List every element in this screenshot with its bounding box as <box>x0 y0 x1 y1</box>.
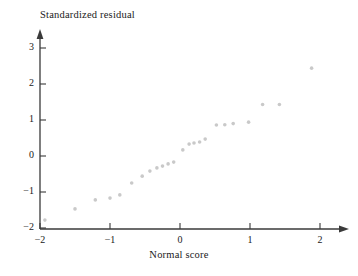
data-point <box>181 148 185 152</box>
y-tick-label-0: −2 <box>12 221 34 232</box>
y-tick-label-1: −1 <box>12 185 34 196</box>
data-point <box>161 164 165 168</box>
x-tick-label-4: 2 <box>307 234 333 245</box>
y-axis-arrow-icon <box>37 29 44 39</box>
data-point <box>278 103 282 107</box>
data-point <box>140 174 144 178</box>
data-point <box>261 103 265 107</box>
x-tick-label-1: −1 <box>97 234 123 245</box>
axes-group <box>37 29 349 232</box>
data-point <box>43 218 47 222</box>
axis-ticks <box>40 48 320 229</box>
data-point <box>231 122 235 126</box>
x-tick-label-0: −2 <box>27 234 53 245</box>
data-point <box>310 66 314 70</box>
data-point <box>148 169 152 173</box>
y-tick-label-3: 1 <box>12 113 34 124</box>
data-point <box>223 123 227 127</box>
x-axis-arrow-icon <box>339 226 349 233</box>
data-point <box>130 181 134 185</box>
data-point <box>192 141 196 145</box>
data-point <box>203 137 207 141</box>
data-point <box>247 120 251 124</box>
data-points <box>43 66 313 222</box>
data-point <box>118 193 122 197</box>
data-point <box>108 196 112 200</box>
data-point <box>215 123 219 127</box>
data-point <box>73 207 77 211</box>
y-tick-label-4: 2 <box>12 77 34 88</box>
data-point <box>187 142 191 146</box>
data-point <box>166 162 170 166</box>
data-point <box>172 160 176 164</box>
data-point <box>155 166 159 170</box>
y-tick-label-2: 0 <box>12 149 34 160</box>
normal-probability-plot: Standardized residual Normal score −2−10… <box>0 0 358 276</box>
data-point <box>94 198 98 202</box>
data-point <box>198 140 202 144</box>
x-tick-label-3: 1 <box>237 234 263 245</box>
x-tick-label-2: 0 <box>167 234 193 245</box>
y-tick-label-5: 3 <box>12 41 34 52</box>
